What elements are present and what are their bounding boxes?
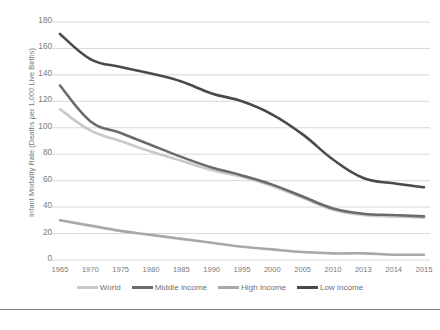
legend-swatch-icon [132,286,153,289]
x-axis-tick-labels: 1965197019751980198519901995200020052010… [0,265,440,279]
x-tick-label: 1975 [112,265,129,274]
x-tick-label: 2013 [355,265,372,274]
x-tick-label: 1965 [52,265,69,274]
series-line-middle-income [60,85,424,216]
y-tick-label: 0 [26,255,52,263]
x-tick-label: 1980 [143,265,160,274]
x-tick-label: 2014 [385,265,402,274]
y-tick-label: 180 [26,17,52,25]
x-tick-label: 2010 [325,265,342,274]
legend-item-low-income[interactable]: Low income [297,283,363,292]
series-line-high-income [60,220,424,255]
x-tick-label: 1995 [234,265,251,274]
footer-divider [0,309,440,310]
x-tick-label: 2015 [416,265,433,274]
y-tick-label: 40 [26,202,52,210]
legend-label: Middle income [155,283,207,292]
legend-swatch-icon [77,286,98,289]
data-series-group [60,34,424,255]
chart-plot-area: Infant Mortality Rate (Deaths per 1,000 … [0,0,440,292]
x-tick-label: 2000 [264,265,281,274]
y-axis-tick-labels: 020406080100120140160180 [26,0,52,292]
y-tick-label: 20 [26,229,52,237]
infant-mortality-chart-figure: Infant Mortality Rate (Deaths per 1,000 … [0,0,440,330]
legend-item-high-income[interactable]: High income [218,283,286,292]
series-line-world [60,109,424,217]
legend-swatch-icon [297,286,318,289]
chart-legend: WorldMiddle incomeHigh incomeLow income [0,283,440,292]
legend-item-middle-income[interactable]: Middle income [132,283,207,292]
legend-label: High income [241,283,286,292]
gridlines [52,22,430,260]
y-tick-label: 100 [26,123,52,131]
legend-label: Low income [320,283,363,292]
chart-canvas [0,0,440,292]
x-tick-label: 1970 [82,265,99,274]
series-line-low-income [60,34,424,187]
y-tick-label: 80 [26,149,52,157]
legend-swatch-icon [218,286,239,289]
x-tick-label: 1985 [173,265,190,274]
y-tick-label: 140 [26,70,52,78]
legend-item-world[interactable]: World [77,283,121,292]
x-tick-label: 1990 [203,265,220,274]
y-tick-label: 160 [26,43,52,51]
y-tick-label: 60 [26,176,52,184]
y-tick-label: 120 [26,96,52,104]
x-tick-label: 2005 [294,265,311,274]
legend-label: World [100,283,121,292]
